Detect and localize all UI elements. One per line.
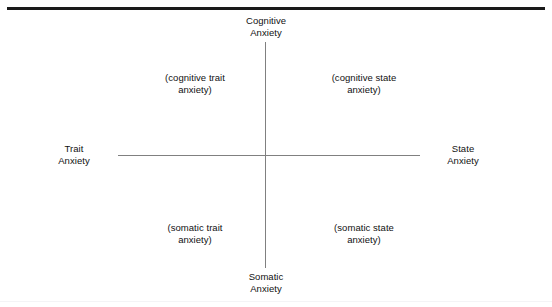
quadrant-label-cognitive-state-anxiety: (cognitive state anxiety) — [296, 72, 432, 96]
top-horizontal-rule — [7, 7, 545, 10]
anxiety-quadrant-figure: Cognitive Anxiety Somatic Anxiety Trait … — [0, 0, 552, 307]
axis-label-somatic-anxiety: Somatic Anxiety — [216, 271, 316, 294]
quadrant-label-somatic-state-anxiety: (somatic state anxiety) — [296, 222, 432, 246]
axis-label-trait-anxiety: Trait Anxiety — [38, 143, 110, 166]
quadrant-label-somatic-trait-anxiety: (somatic trait anxiety) — [132, 222, 258, 246]
horizontal-axis-line — [118, 155, 420, 156]
quadrant-label-cognitive-trait-anxiety: (cognitive trait anxiety) — [132, 72, 258, 96]
axis-label-state-anxiety: State Anxiety — [427, 143, 499, 166]
bottom-hairline-divider — [0, 301, 552, 302]
axis-label-cognitive-anxiety: Cognitive Anxiety — [216, 15, 316, 38]
